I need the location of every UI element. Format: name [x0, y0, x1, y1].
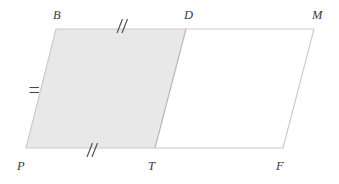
shaded-parallelogram-PBDT — [26, 29, 186, 148]
figure-canvas — [0, 0, 339, 184]
vertex-label-D: D — [184, 9, 193, 22]
vertex-label-M: M — [312, 9, 322, 22]
geometry-figure: B D M P T F — [0, 0, 339, 184]
vertex-label-T: T — [148, 160, 155, 173]
vertex-label-F: F — [276, 160, 284, 173]
tick-pb-double-dash — [30, 88, 40, 93]
vertex-label-B: B — [53, 9, 61, 22]
vertex-label-P: P — [17, 160, 25, 173]
